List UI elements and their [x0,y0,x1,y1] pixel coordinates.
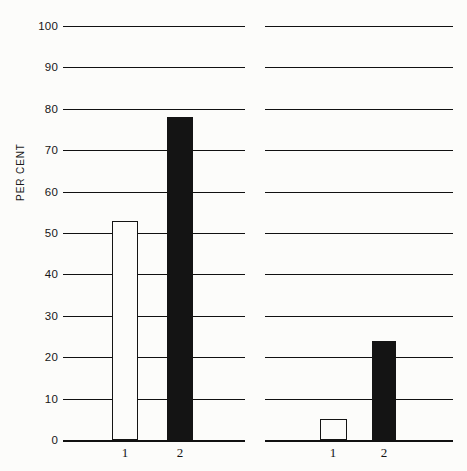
gridline-70-panel-1 [63,150,245,151]
gridline-0-panel-1 [63,440,245,442]
gridline-20-panel-2 [265,357,453,358]
gridline-30-panel-2 [265,316,453,317]
bar-right-panel-cat-1 [320,419,347,440]
y-tick-label-50: 50 [24,227,58,239]
bar-left-panel-cat-1 [112,221,138,440]
gridline-30-panel-1 [63,316,245,317]
bar-right-panel-cat-2 [372,341,396,440]
y-tick-label-40: 40 [24,268,58,280]
gridline-50-panel-2 [265,233,453,234]
y-tick-label-70: 70 [24,144,58,156]
x-label-left-panel-2: 2 [177,445,184,461]
y-axis-tick-labels: 0102030405060708090100 [22,0,58,471]
gridline-40-panel-2 [265,274,453,275]
gridline-0-panel-2 [265,440,453,442]
x-label-left-panel-1: 1 [122,445,129,461]
y-tick-label-20: 20 [24,351,58,363]
gridline-100-panel-2 [265,26,453,27]
y-tick-label-0: 0 [24,434,58,446]
bar-left-panel-cat-2 [167,117,193,440]
gridline-100-panel-1 [63,26,245,27]
x-label-right-panel-1: 1 [330,445,337,461]
gridline-60-panel-2 [265,192,453,193]
y-tick-label-60: 60 [24,186,58,198]
gridline-10-panel-2 [265,399,453,400]
y-tick-label-90: 90 [24,61,58,73]
y-tick-label-30: 30 [24,310,58,322]
gridline-60-panel-1 [63,192,245,193]
gridline-20-panel-1 [63,357,245,358]
gridline-10-panel-1 [63,399,245,400]
gridline-70-panel-2 [265,150,453,151]
gridline-90-panel-1 [63,67,245,68]
gridline-50-panel-1 [63,233,245,234]
x-label-right-panel-2: 2 [381,445,388,461]
y-tick-label-80: 80 [24,103,58,115]
gridline-80-panel-1 [63,109,245,110]
y-tick-label-100: 100 [24,20,58,32]
gridline-90-panel-2 [265,67,453,68]
bar-chart-figure: PER CENT 0102030405060708090100 1212 [0,0,467,471]
gridline-40-panel-1 [63,274,245,275]
y-tick-label-10: 10 [24,393,58,405]
gridline-80-panel-2 [265,109,453,110]
